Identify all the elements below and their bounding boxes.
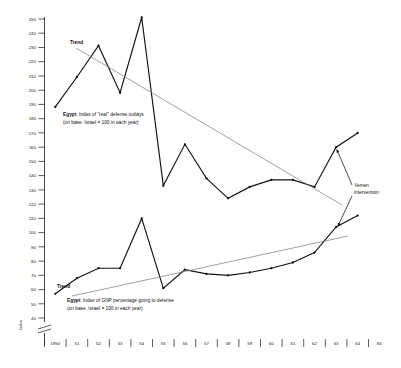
upper-label-bold: Egypt (63, 112, 77, 117)
x-tick-label: 58 (226, 341, 231, 346)
lower-label-bold: Egypt (67, 298, 81, 303)
annotation-trend-upper: Trend (70, 40, 83, 45)
y-tick-label: 170 (29, 131, 37, 136)
y-tick-label: 230 (29, 45, 37, 50)
x-tick-label: 54 (139, 341, 144, 346)
x-tick-label: 63 (334, 341, 339, 346)
y-tick-label: 190 (29, 102, 37, 107)
trend-upper-label: Trend (70, 40, 83, 45)
svg-text:Egypt: Index of GNP percentage: Egypt: Index of GNP percentage going to … (67, 298, 174, 303)
chart-background (0, 0, 401, 368)
y-tick-label: 90 (31, 245, 36, 250)
y-tick-label: 180 (29, 116, 37, 121)
x-tick-label: 1950 (50, 341, 60, 346)
annotation-trend-lower: Trend (57, 284, 70, 289)
y-tick-label: 250 (29, 17, 37, 22)
y-tick-label: 120 (29, 202, 37, 207)
y-tick-label: 220 (29, 59, 37, 64)
yemen-label-line1: Yemen (354, 183, 369, 188)
x-tick-label: 64 (355, 341, 360, 346)
x-tick-label: 62 (312, 341, 317, 346)
yemen-label-line2: intervention (354, 190, 379, 195)
y-tick-label: 210 (29, 74, 37, 79)
x-tick-label: 57 (204, 341, 209, 346)
upper-label-rest: : Index of "real" defense outlays (76, 112, 144, 117)
y-tick-label: 80 (31, 259, 36, 264)
y-axis-title: Index (18, 320, 23, 330)
y-tick-label: 50 (31, 302, 36, 307)
y-tick-label: 100 (29, 230, 37, 235)
x-tick-label: 51 (74, 341, 79, 346)
x-tick-label: 52 (96, 341, 101, 346)
y-tick-label: 40 (31, 316, 36, 321)
egypt-defense-index-chart: 250 240 230 220 210 200 190 180 170 160 … (0, 0, 401, 368)
y-tick-label: 240 (29, 31, 37, 36)
chart-container: 250 240 230 220 210 200 190 180 170 160 … (0, 0, 401, 368)
svg-text:Egypt: Index of "real" defense: Egypt: Index of "real" defense outlays (63, 112, 144, 117)
y-tick-label: 140 (29, 173, 37, 178)
trend-lower-label: Trend (57, 284, 70, 289)
y-tick-label: 150 (29, 159, 37, 164)
x-tick-label: 60 (269, 341, 274, 346)
lower-label-rest: : Index of GNP percentage going to defen… (80, 298, 174, 303)
lower-label-line2: (on base, Israel = 100 in each year) (67, 306, 143, 311)
x-tick-label: 65 (377, 341, 382, 346)
x-tick-label: 59 (247, 341, 252, 346)
x-tick-label: 53 (118, 341, 123, 346)
y-tick-label: 160 (29, 145, 37, 150)
y-tick-label: 200 (29, 88, 37, 93)
y-tick-label: 60 (31, 287, 36, 292)
y-tick-label: 110 (29, 216, 37, 221)
x-tick-label: 61 (290, 341, 295, 346)
y-tick-label: 70 (31, 273, 36, 278)
y-tick-label: 130 (29, 188, 37, 193)
x-tick-label: 55 (161, 341, 166, 346)
x-tick-label: 56 (182, 341, 187, 346)
upper-label-line2: (on base, Israel = 100 in each year) (63, 120, 139, 125)
